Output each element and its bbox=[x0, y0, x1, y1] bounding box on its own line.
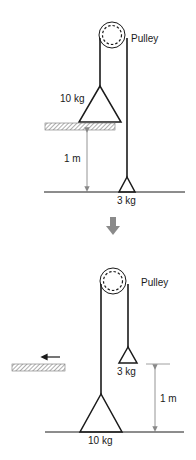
pulley-label: Pulley bbox=[141, 277, 168, 288]
atwood-machine-diagram: Pulley 10 kg 1 m 3 kg Pulley bbox=[0, 0, 196, 460]
ledge bbox=[45, 123, 115, 130]
after-scene: Pulley 3 kg 1 m 10 kg bbox=[12, 268, 184, 446]
down-arrow-icon bbox=[106, 217, 120, 235]
heavy-mass-label: 10 kg bbox=[60, 93, 84, 104]
light-mass-label: 3 kg bbox=[117, 195, 136, 206]
pulley-label: Pulley bbox=[131, 33, 158, 44]
heavy-mass bbox=[80, 394, 122, 432]
pulley-icon bbox=[99, 22, 125, 48]
light-mass bbox=[119, 177, 135, 192]
height-label: 1 m bbox=[64, 153, 81, 164]
light-mass-label: 3 kg bbox=[117, 366, 136, 377]
ledge bbox=[12, 364, 65, 371]
light-mass bbox=[119, 347, 137, 363]
heavy-mass bbox=[79, 86, 121, 122]
heavy-mass-label: 10 kg bbox=[88, 435, 112, 446]
height-label: 1 m bbox=[160, 393, 177, 404]
pulley-icon bbox=[100, 268, 126, 294]
before-scene: Pulley 10 kg 1 m 3 kg bbox=[44, 22, 185, 206]
